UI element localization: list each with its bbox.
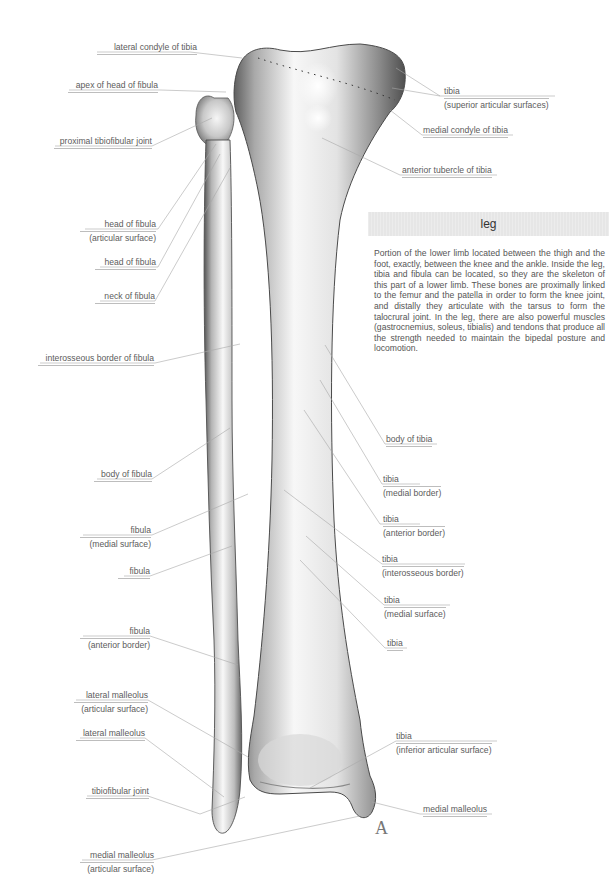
label-fibula-anterior-border: fibula (anterior border) xyxy=(80,625,150,651)
label-lateral-condyle-of-tibia: lateral condyle of tibia xyxy=(97,41,197,55)
label-head-of-fibula-articular-surface: head of fibula (articular surface) xyxy=(80,218,156,244)
label-medial-condyle-of-tibia: medial condyle of tibia xyxy=(423,124,508,138)
label-tibia-medial-surface: tibia (medial surface) xyxy=(384,594,446,620)
label-tibia-inferior-articular-surface: tibia (inferior articular surface) xyxy=(396,730,492,756)
label-interosseous-border-of-fibula: interosseous border of fibula xyxy=(38,352,154,366)
label-tibia-medial-border: tibia (medial border) xyxy=(383,473,441,499)
info-panel-title: leg xyxy=(368,212,609,236)
label-lateral-malleolus-articular-surface: lateral malleolus (articular surface) xyxy=(74,689,148,715)
label-head-of-fibula: head of fibula xyxy=(95,256,156,270)
label-neck-of-fibula: neck of fibula xyxy=(95,290,155,304)
label-apex-of-head-of-fibula: apex of head of fibula xyxy=(68,79,158,93)
label-anterior-tubercle-of-tibia: anterior tubercle of tibia xyxy=(402,164,492,178)
label-tibia: tibia xyxy=(387,637,403,651)
label-lateral-malleolus: lateral malleolus xyxy=(76,727,145,741)
label-fibula-medial-surface: fibula (medial surface) xyxy=(80,524,151,550)
label-body-of-tibia: body of tibia xyxy=(386,433,432,447)
tibia-bone xyxy=(234,44,405,818)
label-tibia-interosseous-border: tibia (interosseous border) xyxy=(382,553,464,579)
label-tibiofibular-joint: tibiofibular joint xyxy=(86,785,149,799)
label-tibia-anterior-border: tibia (anterior border) xyxy=(383,513,445,539)
fibula-bone xyxy=(196,96,242,833)
label-medial-malleolus-articular-surface: medial malleolus (articular surface) xyxy=(80,849,154,875)
label-tibia-superior-articular-surfaces: tibia (superior articular surfaces) xyxy=(444,85,549,111)
label-fibula: fibula xyxy=(118,565,150,579)
figure-letter: A xyxy=(375,818,388,839)
label-proximal-tibiofibular-joint: proximal tibiofibular joint xyxy=(54,135,152,149)
label-body-of-fibula: body of fibula xyxy=(94,468,152,482)
label-medial-malleolus: medial malleolus xyxy=(423,803,487,817)
info-panel-body: Portion of the lower limb located betwee… xyxy=(368,248,609,354)
info-panel: leg Portion of the lower limb located be… xyxy=(368,212,609,354)
